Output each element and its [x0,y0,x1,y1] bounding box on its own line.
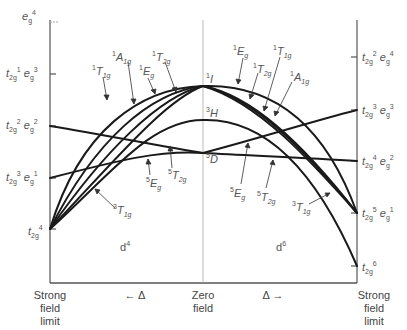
curve-5T2g-left [50,126,203,153]
state-5Eg-right: 5Eg [230,186,245,201]
term-3H: 3H [206,106,218,119]
right-delta-arrow: Δ → [248,289,298,302]
state-1Eg-right: 1Eg [233,44,248,59]
panel-label-d4: d4 [120,240,130,253]
right-config-t2g6: t2g6 [362,260,377,275]
state-3T1g-right: 3T1g [292,200,310,215]
state-5T2g-left: 5T2g [168,168,186,183]
right-strong-field-label: Strong field limit [344,289,404,328]
state-5Eg-left: 5Eg [146,176,161,191]
right-config-t2g3-eg3: t2g3 eg3 [362,103,394,118]
axes [50,20,357,283]
left-config-t2g2-eg2: t2g2 eg2 [6,118,38,133]
right-config-t2g5-eg1: t2g5 eg1 [362,206,394,221]
diagram-canvas [0,0,407,330]
left-strong-field-label: Strong field limit [20,289,80,328]
state-1T2g-right: 1T2g [253,62,271,77]
state-3T1g-left: 3T1g [113,203,131,218]
state-5T2g-right: 5T2g [257,190,275,205]
state-1Eg-left: 1Eg [139,64,154,79]
right-config-t2g4-eg2: t2g4 eg2 [362,154,394,169]
term-5D: 5D [206,152,218,165]
term-1I: 1I [206,72,213,85]
right-config-t2g2-eg4: t2g2 eg4 [362,50,394,65]
left-config-eg4: eg4 [22,9,36,24]
left-config-t2g3-eg1: t2g3 eg1 [6,170,38,185]
zero-field-label: Zero field [173,289,233,315]
curve-5T2g-right [203,153,357,161]
state-1A1g-left: 1A1g [112,50,131,65]
left-delta-arrow: ← Δ [110,289,160,302]
left-config-t2g4: t2g4 [28,224,43,239]
energy-curves [50,86,357,266]
state-1T1g-left: 1T1g [92,64,110,79]
state-1T2g-left: 1T2g [152,50,170,65]
state-1A1g-right: 1A1g [290,70,309,85]
state-1T1g-right: 1T1g [273,44,291,59]
left-config-t2g1-eg3: t2g1 eg3 [6,66,38,81]
panel-label-d6: d6 [276,240,286,253]
curve-5Eg-right [203,110,357,153]
